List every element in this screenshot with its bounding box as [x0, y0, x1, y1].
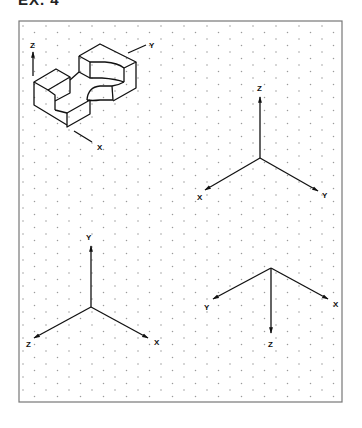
- grid-dot: [57, 123, 59, 125]
- grid-dot: [103, 279, 105, 281]
- grid-dot: [91, 129, 93, 131]
- grid-dot: [45, 194, 47, 196]
- grid-dot: [287, 149, 289, 151]
- grid-dot: [22, 77, 24, 79]
- grid-dot: [172, 123, 174, 125]
- grid-dot: [218, 396, 220, 398]
- grid-dot: [183, 363, 185, 365]
- axes-top-right: ZXY: [197, 84, 328, 202]
- grid-dot: [298, 350, 300, 352]
- grid-dot: [195, 396, 197, 398]
- grid-dot: [310, 58, 312, 60]
- grid-dot: [241, 45, 243, 47]
- object-x-leader: [74, 131, 92, 142]
- grid-dot: [149, 305, 151, 307]
- grid-dot: [68, 181, 70, 183]
- grid-dot: [195, 357, 197, 359]
- grid-dot: [333, 149, 335, 151]
- grid-dot: [264, 71, 266, 73]
- grid-dot: [252, 194, 254, 196]
- grid-dot: [68, 376, 70, 378]
- grid-dot: [114, 129, 116, 131]
- grid-dot: [80, 305, 82, 307]
- grid-dot: [229, 220, 231, 222]
- grid-dot: [45, 363, 47, 365]
- grid-dot: [80, 240, 82, 242]
- grid-dot: [195, 370, 197, 372]
- grid-dot: [149, 97, 151, 99]
- y-axis-label: Y: [322, 191, 328, 200]
- grid-dot: [321, 285, 323, 287]
- grid-dot: [22, 220, 24, 222]
- grid-dot: [287, 253, 289, 255]
- grid-dot: [160, 77, 162, 79]
- grid-dot: [172, 227, 174, 229]
- grid-dot: [45, 155, 47, 157]
- grid-dot: [103, 110, 105, 112]
- grid-dot: [45, 220, 47, 222]
- grid-dot: [114, 285, 116, 287]
- grid-dot: [264, 344, 266, 346]
- grid-dot: [310, 149, 312, 151]
- grid-dot: [252, 311, 254, 313]
- grid-dot: [137, 389, 139, 391]
- grid-dot: [137, 285, 139, 287]
- grid-dot: [229, 38, 231, 40]
- grid-dot: [126, 253, 128, 255]
- grid-dot: [45, 181, 47, 183]
- grid-dot: [114, 272, 116, 274]
- grid-dot: [22, 246, 24, 248]
- grid-dot: [321, 77, 323, 79]
- grid-dot: [34, 162, 36, 164]
- grid-dot: [183, 168, 185, 170]
- grid-dot: [218, 240, 220, 242]
- grid-dot: [241, 305, 243, 307]
- grid-dot: [137, 77, 139, 79]
- grid-dot: [172, 58, 174, 60]
- grid-dot: [91, 25, 93, 27]
- grid-dot: [298, 181, 300, 183]
- grid-dot: [160, 129, 162, 131]
- grid-dot: [241, 240, 243, 242]
- grid-dot: [126, 45, 128, 47]
- grid-dot: [137, 142, 139, 144]
- grid-dot: [275, 103, 277, 105]
- grid-dot: [287, 305, 289, 307]
- grid-dot: [206, 298, 208, 300]
- grid-dot: [229, 324, 231, 326]
- grid-dot: [34, 331, 36, 333]
- grid-dot: [137, 38, 139, 40]
- grid-dot: [34, 149, 36, 151]
- grid-dot: [68, 103, 70, 105]
- grid-dot: [137, 233, 139, 235]
- grid-dot: [229, 142, 231, 144]
- grid-dot: [160, 233, 162, 235]
- grid-dot: [160, 285, 162, 287]
- grid-dot: [252, 155, 254, 157]
- grid-dot: [287, 175, 289, 177]
- grid-dot: [264, 357, 266, 359]
- grid-dot: [275, 246, 277, 248]
- grid-dot: [91, 142, 93, 144]
- grid-dot: [57, 240, 59, 242]
- grid-dot: [298, 272, 300, 274]
- grid-dot: [137, 272, 139, 274]
- grid-dot: [126, 149, 128, 151]
- grid-dot: [126, 162, 128, 164]
- grid-dot: [218, 318, 220, 320]
- grid-dot: [333, 162, 335, 164]
- grid-dot: [68, 337, 70, 339]
- isometric-dot-grid: [22, 25, 334, 397]
- grid-dot: [172, 214, 174, 216]
- grid-dot: [321, 181, 323, 183]
- grid-dot: [183, 350, 185, 352]
- grid-dot: [137, 311, 139, 313]
- grid-dot: [126, 71, 128, 73]
- grid-dot: [114, 207, 116, 209]
- grid-dot: [287, 123, 289, 125]
- grid-dot: [218, 227, 220, 229]
- grid-dot: [34, 227, 36, 229]
- grid-dot: [91, 233, 93, 235]
- grid-dot: [287, 318, 289, 320]
- grid-dot: [264, 240, 266, 242]
